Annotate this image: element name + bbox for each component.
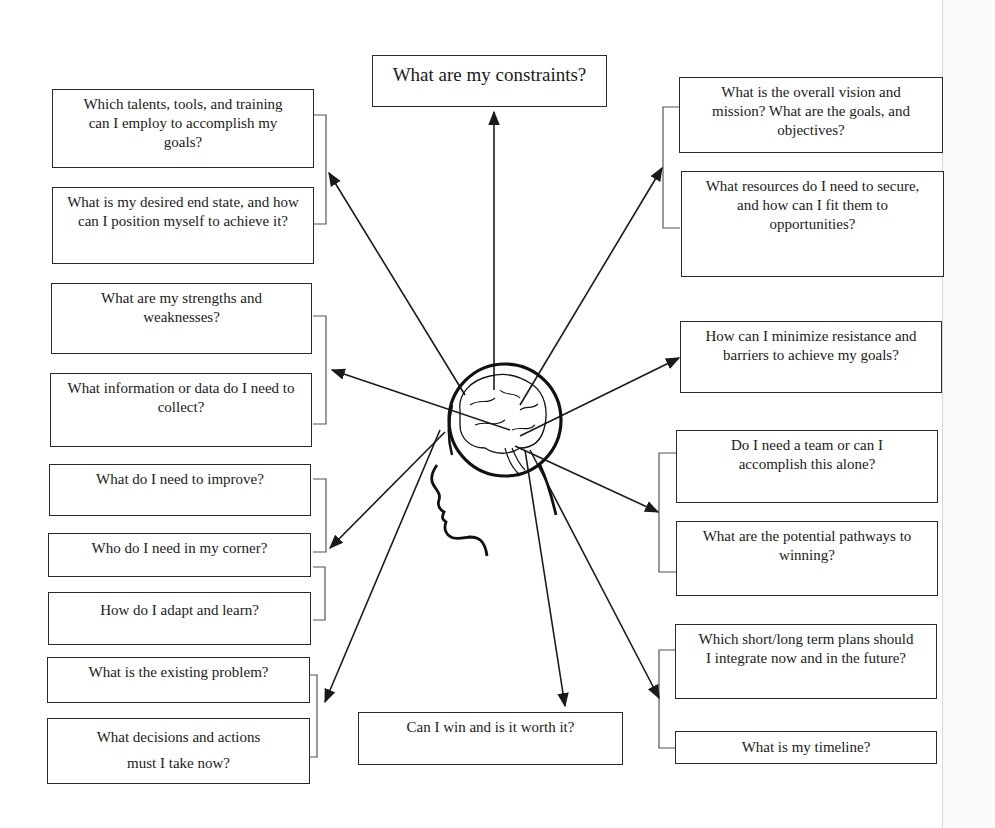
box-bottom-win: Can I win and is it worth it? [358, 712, 623, 765]
bracket-left-5 [310, 675, 317, 757]
brackets [310, 107, 680, 757]
box-text: What information or data do I need to co… [51, 379, 311, 417]
box-right-4: Do I need a team or can I accomplish thi… [676, 430, 938, 503]
box-left-2: What is my desired end state, and how ca… [52, 187, 314, 264]
bracket-left-4 [313, 567, 325, 620]
box-text: Can I win and is it worth it? [359, 718, 622, 737]
bracket-right-2 [659, 453, 676, 572]
box-right-5: What are the potential pathways to winni… [676, 521, 938, 596]
box-left-6: Who do I need in my corner? [48, 533, 311, 577]
bracket-left-2 [313, 316, 326, 424]
box-text: What are my constraints? [373, 63, 606, 87]
box-text: What do I need to improve? [50, 470, 310, 489]
arrow-bottom-left [325, 430, 440, 702]
arrow-mid-left [332, 370, 510, 430]
arrows [325, 112, 679, 706]
box-right-7: What is my timeline? [675, 731, 937, 764]
box-text: What resources do I need to secure, and … [682, 177, 943, 234]
box-text: Who do I need in my corner? [49, 539, 310, 558]
arrow-upper-left [329, 173, 465, 395]
box-left-5: What do I need to improve? [49, 464, 311, 516]
box-text: Do I need a team or can I accomplish thi… [677, 436, 937, 474]
box-text: What are my strengths and weaknesses? [52, 289, 311, 327]
box-right-6: Which short/long term plans should I int… [675, 624, 937, 699]
arrow-mid-right [520, 358, 679, 436]
box-right-1: What is the overall vision and mission? … [679, 77, 943, 153]
box-text: How can I minimize resistance and barrie… [681, 327, 941, 365]
box-text: What are the potential pathways to winni… [677, 527, 937, 565]
arrow-lower-right [515, 446, 658, 512]
arrow-bottom [525, 450, 565, 706]
arrow-lower-left [330, 432, 445, 548]
box-text: What is the existing problem? [48, 663, 309, 682]
bracket-right-3 [659, 650, 676, 748]
box-left-1: Which talents, tools, and training can I… [52, 89, 314, 168]
bracket-right-1 [663, 107, 680, 228]
head-brain-icon [432, 364, 561, 556]
box-left-8: What is the existing problem? [47, 657, 310, 703]
box-text: Which short/long term plans should I int… [676, 630, 936, 668]
box-left-9: What decisions and actions must I take n… [47, 718, 310, 784]
box-text: How do I adapt and learn? [49, 598, 310, 620]
box-right-3: How can I minimize resistance and barrie… [680, 321, 942, 393]
box-text: Which talents, tools, and training can I… [53, 95, 313, 152]
arrow-upper-right [520, 168, 662, 405]
box-text: What is my timeline? [676, 737, 936, 757]
box-left-4: What information or data do I need to co… [50, 373, 312, 447]
box-right-2: What resources do I need to secure, and … [681, 171, 944, 277]
bracket-left-1 [313, 115, 326, 224]
box-text: What is the overall vision and mission? … [680, 83, 942, 140]
box-text: What decisions and actions must I take n… [48, 724, 309, 776]
box-left-7: How do I adapt and learn? [48, 592, 311, 645]
box-top-constraints: What are my constraints? [372, 55, 607, 107]
box-text: What is my desired end state, and how ca… [53, 193, 313, 231]
box-left-3: What are my strengths and weaknesses? [51, 283, 312, 354]
bracket-left-3 [313, 479, 326, 552]
